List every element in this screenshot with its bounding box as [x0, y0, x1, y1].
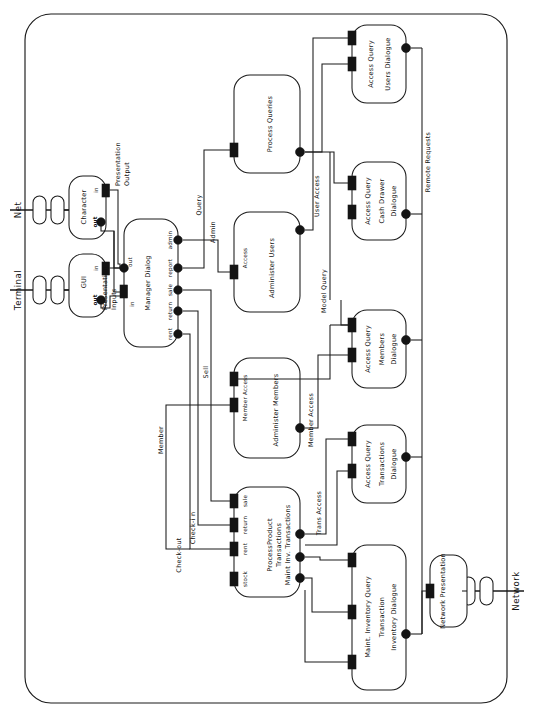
network-connector-b	[480, 577, 493, 605]
product-out-port-a[interactable]	[296, 530, 305, 539]
conn-check-out: Check-out	[175, 537, 183, 572]
svg-text:in: in	[93, 265, 99, 271]
terminal-external-port: Terminal	[13, 270, 23, 311]
members-dialogue-out-port[interactable]	[402, 336, 411, 345]
svg-text:admin: admin	[167, 230, 173, 249]
members-dialogue-box[interactable]: Access Query Members Dialogue	[348, 310, 411, 388]
svg-text:Transactions: Transactions	[275, 523, 283, 568]
svg-text:Access Query: Access Query	[364, 177, 372, 225]
conn-remote-requests: Remote Requests	[424, 131, 432, 192]
manager-port-sale[interactable]	[174, 286, 183, 295]
svg-text:Dialogue: Dialogue	[390, 333, 398, 364]
net-connector-a	[33, 196, 46, 224]
inventory-dialogue-in-port-a[interactable]	[348, 553, 356, 567]
product-out-port-b[interactable]	[296, 553, 305, 562]
network-presentation-box[interactable]: Network Presentation	[426, 553, 467, 629]
transactions-dialogue-out-port[interactable]	[402, 453, 411, 462]
members-dialogue-in-port-b[interactable]	[348, 348, 356, 362]
users-dialogue-out-port[interactable]	[402, 44, 411, 53]
terminal-connector-b	[51, 276, 64, 304]
transactions-dialogue-box[interactable]: Access Query Transactions Dialogue	[348, 425, 411, 503]
svg-text:Character: Character	[80, 190, 88, 225]
users-dialogue-in-port-a[interactable]	[348, 31, 356, 45]
svg-text:Administer Users: Administer Users	[268, 238, 276, 299]
character-presentation-box[interactable]: Character in out	[69, 176, 110, 239]
cash-drawer-in-port-a[interactable]	[348, 176, 356, 190]
character-in-port[interactable]	[102, 184, 110, 197]
users-dialogue-in-port-b[interactable]	[348, 57, 356, 71]
conn-member: Member	[157, 426, 165, 454]
administer-users-box[interactable]: Administer Users Access	[230, 212, 305, 312]
product-port-return[interactable]	[230, 518, 238, 532]
product-port-stock[interactable]	[230, 572, 238, 586]
members-dialogue-in-port-a[interactable]	[348, 318, 356, 332]
manager-port-return[interactable]	[174, 307, 183, 316]
manager-dialog-in-port[interactable]	[120, 285, 128, 298]
conn-admin: Admin	[209, 221, 217, 243]
svg-text:Maint Inv. Transactions: Maint Inv. Transactions	[284, 504, 292, 585]
administer-users-access-port[interactable]	[230, 265, 238, 279]
process-queries-out-port[interactable]	[296, 148, 305, 157]
svg-text:Transaction: Transaction	[378, 597, 386, 638]
conn-sell: Sell	[202, 366, 210, 379]
conn-model-query: Model Query	[320, 269, 328, 313]
svg-text:return: return	[242, 516, 248, 535]
administer-users-access-label: Access	[242, 248, 248, 268]
svg-text:sale: sale	[167, 284, 173, 296]
administer-users-out-port[interactable]	[296, 226, 305, 235]
process-queries-in-port[interactable]	[230, 143, 238, 157]
conn-query: Query	[195, 195, 203, 216]
svg-text:Users Dialogue: Users Dialogue	[384, 37, 392, 90]
net-connector-b	[51, 196, 64, 224]
net-external-port: Net	[13, 202, 23, 219]
svg-text:Transactions: Transactions	[378, 442, 386, 487]
svg-text:report: report	[167, 258, 174, 277]
net-external-group: Net	[10, 196, 73, 224]
svg-text:Dialogue: Dialogue	[390, 185, 398, 216]
inventory-dialogue-in-port-b[interactable]	[348, 605, 356, 619]
administer-members-out-port[interactable]	[296, 424, 305, 433]
manager-port-report[interactable]	[174, 264, 183, 273]
inventory-dialogue-box[interactable]: Maint. Inventory Query Transaction Inven…	[348, 545, 411, 690]
manager-port-admin[interactable]	[174, 236, 183, 245]
administer-members-access-port-b[interactable]	[230, 398, 238, 412]
svg-text:stock: stock	[242, 571, 248, 587]
terminal-connector-a	[33, 276, 46, 304]
process-queries-box[interactable]: Process Queries	[230, 75, 305, 173]
cash-drawer-in-port-b[interactable]	[348, 205, 356, 219]
svg-text:ProcessProduct: ProcessProduct	[266, 518, 274, 572]
conn-presentation-inputs-l1: Presentation	[101, 266, 109, 310]
transactions-dialogue-in-port-a[interactable]	[348, 432, 356, 446]
svg-text:out: out	[127, 257, 133, 267]
character-out-port[interactable]	[97, 218, 106, 227]
product-out-port-c[interactable]	[296, 574, 305, 583]
svg-text:Members: Members	[378, 333, 386, 366]
network-presentation-in-port[interactable]	[426, 584, 434, 598]
svg-text:in: in	[129, 301, 135, 307]
conn-presentation-inputs-l2: Inputs	[110, 288, 118, 310]
transactions-dialogue-in-port-b[interactable]	[348, 464, 356, 478]
cash-drawer-out-port[interactable]	[402, 210, 411, 219]
manager-port-rent[interactable]	[174, 330, 183, 339]
product-port-rent[interactable]	[230, 542, 238, 556]
product-transactions-box[interactable]: ProcessProduct Transactions Maint Inv. T…	[230, 487, 305, 597]
inventory-dialogue-out-port[interactable]	[402, 630, 411, 639]
cash-drawer-dialogue-box[interactable]: Access Query Cash Drawer Dialogue	[348, 162, 411, 240]
administer-members-access-port-a[interactable]	[230, 372, 238, 386]
svg-text:out: out	[92, 294, 98, 305]
component-structure-diagram: Net Terminal Network Character in out	[0, 0, 534, 717]
product-port-sale[interactable]	[230, 494, 238, 508]
svg-text:Process Queries: Process Queries	[266, 96, 274, 153]
svg-text:Manager Dialog: Manager Dialog	[144, 255, 152, 311]
svg-text:Administer Members: Administer Members	[272, 373, 280, 446]
users-dialogue-box[interactable]: Access Query Users Dialogue	[348, 25, 411, 103]
manager-dialog-box[interactable]: Manager Dialog out in admin report sale …	[120, 219, 183, 347]
conn-presentation-output-l1: Presentation	[114, 142, 122, 186]
administer-members-access-label: Member Access	[242, 375, 248, 422]
inventory-dialogue-in-port-c[interactable]	[348, 655, 356, 669]
conn-member-access: Member Access	[307, 393, 315, 447]
administer-members-box[interactable]: Administer Members Member Access	[230, 358, 305, 458]
svg-text:rent: rent	[242, 542, 248, 555]
conn-trans-access: Trans Access	[315, 490, 323, 536]
conn-presentation-output-l2: Output	[123, 162, 131, 186]
